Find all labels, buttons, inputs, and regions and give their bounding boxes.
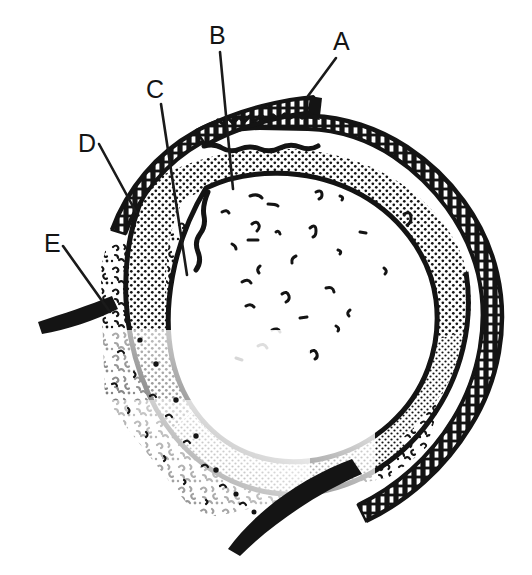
label-b: B — [209, 21, 226, 49]
label-e: E — [44, 229, 61, 257]
label-a: A — [333, 27, 350, 55]
label-d: D — [78, 129, 96, 157]
anatomical-line-drawing: A B C D E — [0, 0, 532, 575]
figure-container: A B C D E — [0, 0, 532, 575]
label-c: C — [146, 75, 164, 103]
